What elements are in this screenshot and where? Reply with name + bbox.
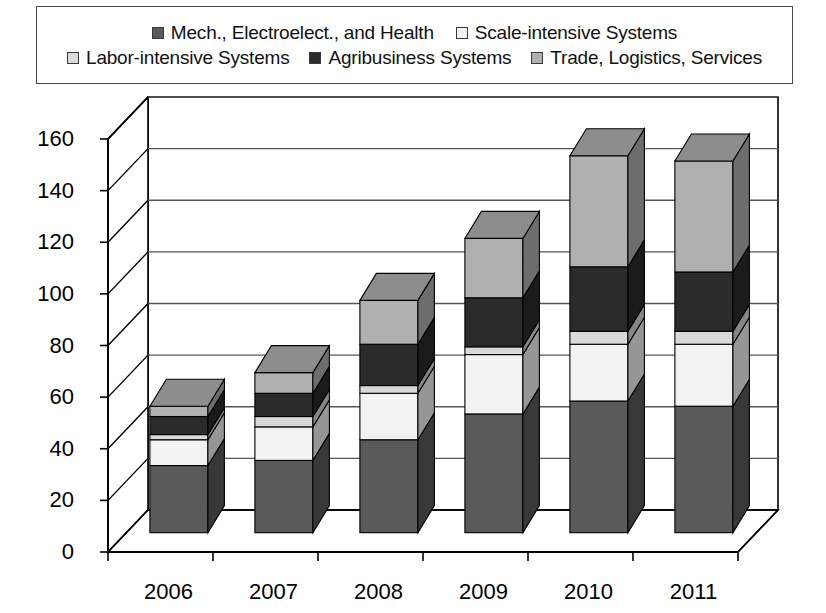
legend-item-scale-intensive-systems: Scale-intensive Systems <box>456 22 677 43</box>
bar-group-2006 <box>150 379 224 532</box>
x-axis-tick-label-2010: 2010 <box>534 579 644 605</box>
legend-item-mech-electroelect-health: Mech., Electroelect., and Health <box>152 22 434 43</box>
y-axis-tick-label-20: 20 <box>12 489 74 511</box>
x-axis-tick-label-2007: 2007 <box>219 579 329 605</box>
legend-label-mech: Mech., Electroelect., and Health <box>171 22 434 43</box>
legend-label-scale-intensive: Scale-intensive Systems <box>475 22 677 43</box>
legend-label-trade-logistics: Trade, Logistics, Services <box>550 47 762 68</box>
legend-item-trade-logistics-services: Trade, Logistics, Services <box>531 47 762 68</box>
y-axis-tick-label-140: 140 <box>12 180 74 202</box>
y-axis-tick-label-0: 0 <box>12 541 74 563</box>
chart-plot-area: 020406080100120140160 200620072008200920… <box>0 96 826 613</box>
y-axis-tick-label-80: 80 <box>12 335 74 357</box>
bar-group-2011 <box>675 134 749 533</box>
x-axis-tick-label-2009: 2009 <box>429 579 539 605</box>
y-axis-tick-label-100: 100 <box>12 283 74 305</box>
legend-row-2: Labor-intensive Systems Agribusiness Sys… <box>67 47 762 68</box>
bar-group-2010 <box>570 129 644 533</box>
x-axis-tick-label-2008: 2008 <box>324 579 434 605</box>
legend-item-labor-intensive-systems: Labor-intensive Systems <box>67 47 289 68</box>
bar-group-2009 <box>465 211 539 532</box>
chart-x-axis-labels: 200620072008200920102011 <box>0 579 826 609</box>
chart-legend: Mech., Electroelect., and Health Scale-i… <box>36 6 793 84</box>
bar-group-2008 <box>360 273 434 532</box>
y-axis-tick-label-40: 40 <box>12 438 74 460</box>
y-axis-tick-label-120: 120 <box>12 231 74 253</box>
legend-swatch-icon-labor-intensive <box>67 52 79 64</box>
x-axis-tick-label-2011: 2011 <box>639 579 749 605</box>
legend-swatch-icon-scale-intensive <box>456 27 468 39</box>
y-axis-tick-label-60: 60 <box>12 386 74 408</box>
legend-label-agribusiness: Agribusiness Systems <box>328 47 511 68</box>
legend-row-1: Mech., Electroelect., and Health Scale-i… <box>152 22 677 43</box>
bar-group-2007 <box>255 346 329 533</box>
y-axis-tick-label-160: 160 <box>12 128 74 150</box>
legend-swatch-icon-trade-logistics <box>531 52 543 64</box>
chart-canvas <box>0 96 826 613</box>
chart-y-axis-labels: 020406080100120140160 <box>2 96 74 613</box>
x-axis-tick-label-2006: 2006 <box>114 579 224 605</box>
legend-swatch-icon-mech <box>152 27 164 39</box>
legend-swatch-icon-agribusiness <box>309 52 321 64</box>
legend-label-labor-intensive: Labor-intensive Systems <box>86 47 289 68</box>
legend-item-agribusiness-systems: Agribusiness Systems <box>309 47 511 68</box>
